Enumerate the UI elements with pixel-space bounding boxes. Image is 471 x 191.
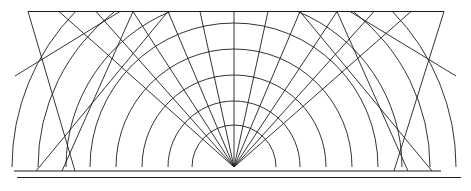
ray-10 <box>234 12 411 168</box>
figure-container <box>0 0 471 191</box>
diag-chord-0 <box>62 12 133 172</box>
arc-r222-left <box>12 12 76 168</box>
right-outer-down <box>394 12 444 172</box>
diag-chord-2 <box>337 12 408 172</box>
baseline-group <box>14 171 461 178</box>
radial-ray-group <box>59 12 411 168</box>
left-outer-down <box>28 12 75 172</box>
ray-6 <box>234 12 268 168</box>
arc-r222-right <box>392 12 456 168</box>
right-outer-up <box>350 12 456 77</box>
arc-ray-diagram <box>0 0 471 191</box>
ray-9 <box>234 12 374 168</box>
ray-8 <box>234 12 337 168</box>
ray-3 <box>168 12 234 168</box>
ray-7 <box>234 12 300 168</box>
ray-1 <box>96 12 234 168</box>
diagonal-group <box>15 12 456 172</box>
ray-4 <box>200 12 234 168</box>
